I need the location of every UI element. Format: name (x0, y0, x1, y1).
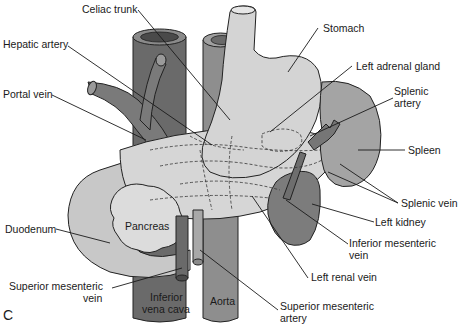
label-left-adrenal-gland: Left adrenal gland (356, 60, 440, 72)
label-left-renal-vein: Left renal vein (311, 271, 377, 283)
superior-mesenteric-vein (176, 216, 188, 281)
leader-left-kidney (312, 204, 374, 222)
label-superior-mesenteric-vein-line2: vein (83, 292, 102, 304)
label-inferior-vena-cava-line2: vena cava (142, 303, 190, 315)
label-splenic-vein: Splenic vein (401, 197, 458, 209)
label-pancreas: Pancreas (125, 220, 169, 232)
sma-tube (193, 210, 203, 262)
smv-tube (176, 216, 188, 278)
smv-opening (176, 275, 188, 281)
label-aorta: Aorta (210, 295, 235, 307)
esophagus-opening (231, 6, 255, 14)
portal-branch-opening (156, 54, 166, 66)
label-splenic-artery-line1: Splenic (394, 85, 428, 97)
sma-opening (193, 259, 203, 265)
label-inferior-mesenteric-vein-line1: Inferior mesenteric (349, 237, 436, 249)
panel-letter: C (3, 307, 13, 323)
label-left-kidney: Left kidney (375, 216, 427, 228)
anatomy-diagram: Celiac trunk Hepatic artery Portal vein … (0, 0, 458, 325)
label-superior-mesenteric-artery-line1: Superior mesenteric (280, 300, 374, 312)
label-duodenum: Duodenum (5, 223, 57, 235)
label-superior-mesenteric-vein-line1: Superior mesenteric (9, 280, 103, 292)
label-hepatic-artery: Hepatic artery (3, 38, 69, 50)
ivc-lumen (141, 32, 179, 42)
label-spleen: Spleen (408, 144, 441, 156)
label-splenic-artery-line2: artery (394, 97, 422, 109)
label-stomach: Stomach (323, 22, 365, 34)
superior-mesenteric-artery (193, 210, 203, 265)
label-portal-vein: Portal vein (3, 88, 53, 100)
label-celiac-trunk: Celiac trunk (82, 3, 138, 15)
label-inferior-vena-cava-line1: Inferior (150, 291, 183, 303)
label-superior-mesenteric-artery-line2: artery (280, 312, 308, 324)
label-inferior-mesenteric-vein-line2: vein (349, 249, 368, 261)
